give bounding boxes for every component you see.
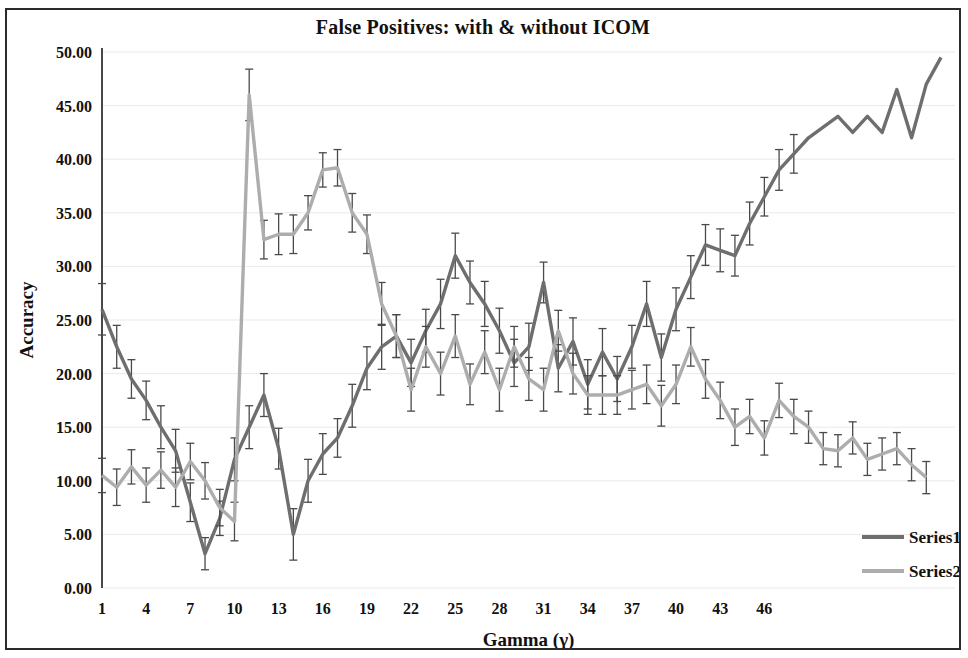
svg-text:45.00: 45.00	[56, 98, 92, 115]
series-1-group	[98, 57, 941, 569]
x-axis-tick-labels: 14710131619222528313437404346	[98, 600, 772, 617]
svg-text:20.00: 20.00	[56, 366, 92, 383]
svg-text:31: 31	[536, 600, 552, 617]
svg-text:46: 46	[756, 600, 772, 617]
svg-text:43: 43	[712, 600, 728, 617]
svg-text:30.00: 30.00	[56, 258, 92, 275]
svg-text:10.00: 10.00	[56, 473, 92, 490]
series-1-line	[102, 57, 941, 553]
svg-text:34: 34	[580, 600, 596, 617]
svg-text:1: 1	[98, 600, 106, 617]
svg-text:22: 22	[403, 600, 419, 617]
legend-label-1: Series1	[909, 528, 959, 547]
chart-legend: Series1Series2	[862, 528, 959, 581]
x-axis-title: Gamma (γ)	[483, 629, 575, 648]
svg-text:4: 4	[142, 600, 150, 617]
svg-text:25.00: 25.00	[56, 312, 92, 329]
svg-text:37: 37	[624, 600, 640, 617]
y-axis-title: Accuracy	[16, 281, 37, 359]
svg-text:40: 40	[668, 600, 684, 617]
svg-text:50.00: 50.00	[56, 44, 92, 61]
svg-text:15.00: 15.00	[56, 419, 92, 436]
svg-text:35.00: 35.00	[56, 205, 92, 222]
svg-text:0.00: 0.00	[64, 580, 92, 597]
svg-text:16: 16	[315, 600, 331, 617]
chart-frame: False Positives: with & without ICOM 0.0…	[5, 8, 961, 650]
svg-text:7: 7	[186, 600, 194, 617]
svg-text:19: 19	[359, 600, 375, 617]
svg-text:5.00: 5.00	[64, 526, 92, 543]
svg-text:28: 28	[491, 600, 507, 617]
svg-text:13: 13	[271, 600, 287, 617]
y-axis-tick-labels: 0.005.0010.0015.0020.0025.0030.0035.0040…	[56, 44, 92, 597]
legend-label-2: Series2	[909, 562, 959, 581]
svg-text:10: 10	[226, 600, 242, 617]
gridlines	[102, 52, 955, 588]
chart-plot-area: 0.005.0010.0015.0020.0025.0030.0035.0040…	[7, 10, 959, 648]
svg-text:40.00: 40.00	[56, 151, 92, 168]
svg-text:25: 25	[447, 600, 463, 617]
